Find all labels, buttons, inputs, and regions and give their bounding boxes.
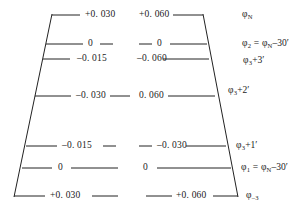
row2-phi-subscript: 2 <box>248 42 252 49</box>
row2-ref-phi-symbol: φ <box>262 38 268 48</box>
left-edge-line <box>14 14 52 197</box>
row3-right-label: φ3+3′ <box>243 55 264 66</box>
row2-phi-symbol: φ <box>242 38 248 48</box>
row3-offset: +3′ <box>252 55 264 65</box>
row6-right-label: φ1 = φN–30′ <box>241 162 288 173</box>
row6-middle-value: 0 <box>143 162 148 172</box>
row6-phi-symbol: φ <box>241 162 247 172</box>
row7-phi-subscript: –3 <box>252 194 259 201</box>
trapezoid-diagram: +0. 030 +0. 060 φN 0 0 φ2 = φN–30′ –0. 0… <box>0 0 307 212</box>
row5-right-label: φ3+1′ <box>236 140 257 151</box>
row7-phi-symbol: φ <box>246 190 252 200</box>
row1-phi-symbol: φ <box>242 9 248 19</box>
row5-phi-subscript: 3 <box>242 144 246 151</box>
row2-left-value: 0 <box>88 38 93 48</box>
row6-ref-subscript: N <box>267 166 272 173</box>
row6-offset: –30′ <box>272 162 288 172</box>
row1-phi-subscript: N <box>248 13 253 20</box>
row3-phi-symbol: φ <box>243 55 249 65</box>
row4-offset: +2′ <box>237 85 249 95</box>
row5-middle-value: –0. 030 <box>157 140 187 150</box>
row7-right-label: φ–3 <box>246 190 259 201</box>
row6-left-value: 0 <box>58 162 63 172</box>
row3-left-value: –0. 015 <box>77 53 107 63</box>
row2-equals: = <box>251 38 262 48</box>
row2-offset: –30′ <box>273 38 289 48</box>
row3-middle-value: –0. 060 <box>137 53 167 63</box>
row6-equals: = <box>250 162 261 172</box>
row1-left-value: +0. 030 <box>85 9 116 19</box>
right-edge-line <box>203 14 238 197</box>
row1-middle-value: +0. 060 <box>139 9 170 19</box>
row7-left-value: +0. 030 <box>50 190 81 200</box>
row3-phi-subscript: 3 <box>249 59 253 66</box>
row4-right-label: φ3+2′ <box>228 85 249 96</box>
row4-left-value: –0. 030 <box>76 90 106 100</box>
row4-phi-symbol: φ <box>228 85 234 95</box>
row5-left-value: –0. 015 <box>62 140 92 150</box>
diagram-lines <box>0 0 307 212</box>
row2-middle-value: 0 <box>157 38 162 48</box>
row2-ref-subscript: N <box>268 42 273 49</box>
row1-right-label: φN <box>242 9 253 20</box>
row4-phi-subscript: 3 <box>234 89 238 96</box>
row5-phi-symbol: φ <box>236 140 242 150</box>
row2-right-label: φ2 = φN–30′ <box>242 38 289 49</box>
row6-ref-phi-symbol: φ <box>261 162 267 172</box>
row6-phi-subscript: 1 <box>247 166 251 173</box>
row5-offset: +1′ <box>245 140 257 150</box>
row4-middle-value: 0. 060 <box>139 90 164 100</box>
row7-middle-value: +0. 060 <box>176 190 207 200</box>
